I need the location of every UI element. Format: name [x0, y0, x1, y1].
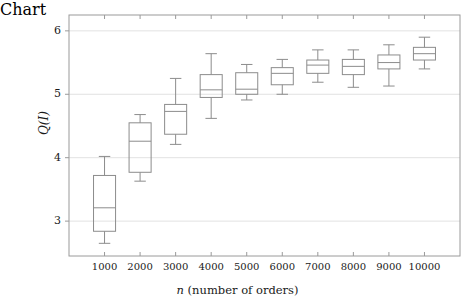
- grid-lines: [69, 31, 460, 221]
- box-rect: [236, 73, 258, 95]
- x-tick-label: 3000: [163, 261, 188, 272]
- box-rect: [307, 60, 329, 73]
- x-tick-label: 9000: [376, 261, 401, 272]
- x-tick-label: 4000: [198, 261, 223, 272]
- boxplot-figure: Q(I) n (number of orders) 3456 100020003…: [0, 0, 475, 308]
- box-plot-item: [307, 50, 329, 82]
- box-plot-item: [200, 54, 222, 119]
- x-tick-label: 8000: [341, 261, 366, 272]
- box-plot-item: [342, 50, 364, 87]
- plot-frame: [69, 15, 460, 256]
- box-rect: [378, 55, 400, 69]
- box-plot-item: [378, 45, 400, 86]
- x-tick-label: 2000: [127, 261, 152, 272]
- y-tick-label: 6: [39, 24, 61, 37]
- box-plot-item: [271, 59, 293, 94]
- box-rect: [94, 175, 116, 231]
- box-plot-item: [94, 156, 116, 243]
- y-tick-label: 3: [39, 214, 61, 227]
- x-tick-label: 10000: [409, 261, 441, 272]
- box-rect: [129, 123, 151, 172]
- frame-rect: [69, 15, 460, 256]
- x-tick-label: 6000: [270, 261, 295, 272]
- box-plot-item: [413, 37, 435, 69]
- x-tick-label: 7000: [305, 261, 330, 272]
- box-rect: [165, 104, 187, 134]
- box-rect: [271, 68, 293, 85]
- y-tick-label: 5: [39, 87, 61, 100]
- box-plot-item: [165, 78, 187, 144]
- x-tick-label: 1000: [92, 261, 117, 272]
- x-tick-marks: [105, 15, 425, 256]
- y-tick-label: 4: [39, 151, 61, 164]
- box-plot-item: [129, 115, 151, 182]
- box-rect: [342, 59, 364, 74]
- box-plot-item: [236, 64, 258, 100]
- x-tick-label: 5000: [234, 261, 259, 272]
- y-tick-marks: [65, 31, 69, 221]
